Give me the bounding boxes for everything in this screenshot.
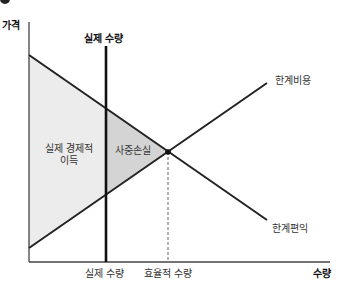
deadweight-loss-label: 사중손실 xyxy=(115,145,151,157)
y-axis-label: 가격 xyxy=(2,20,20,32)
x-axis-label: 수량 xyxy=(313,268,331,280)
marginal-benefit-label: 한계편익 xyxy=(272,223,308,235)
marginal-cost-label: 한계비용 xyxy=(275,75,311,87)
actual-surplus-label: 실제 경제적 이득 xyxy=(38,143,100,167)
actual-surplus-label-line2: 이득 xyxy=(38,155,100,167)
equilibrium-point xyxy=(165,149,171,155)
efficient-quantity-label: 효율적 수량 xyxy=(144,268,192,280)
actual-quantity-top-label: 실제 수량 xyxy=(84,33,123,45)
actual-surplus-label-line1: 실제 경제적 xyxy=(38,143,100,155)
actual-quantity-bottom-label: 실제 수량 xyxy=(85,268,124,280)
